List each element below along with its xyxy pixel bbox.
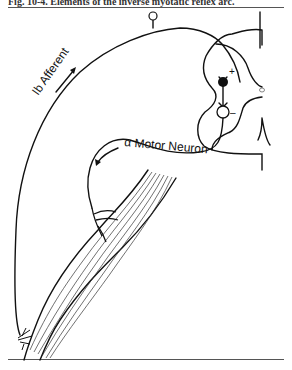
dorsal-root-ganglion <box>149 12 157 20</box>
gray-matter-ventral <box>212 97 262 150</box>
cord-right-lower <box>258 118 270 145</box>
motor-neuron-axon <box>88 118 223 208</box>
muscle-outline-upper <box>24 170 148 360</box>
excitatory-sign: + <box>229 66 235 77</box>
muscle-fibers <box>30 172 172 358</box>
motor-neuron-label: α Motor Neuron <box>124 135 209 156</box>
golgi-tendon-organ <box>18 328 32 350</box>
inhibitory-sign: – <box>230 107 236 118</box>
ib-afferent-label: Ib Afferent <box>29 45 72 98</box>
central-canal <box>260 88 265 92</box>
motor-neuron-cell <box>217 106 229 118</box>
motor-arrow-shaft <box>98 148 118 162</box>
motor-end-plate <box>92 208 118 242</box>
interneuron-cell <box>218 77 228 87</box>
muscle-outline-lower <box>40 178 176 360</box>
reflex-arc-diagram: Ib Afferent α Motor Neuron + – <box>0 0 292 370</box>
